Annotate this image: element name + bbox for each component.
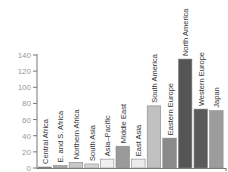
bar-label: Japan [212, 87, 221, 107]
bar-label: East Asia [134, 124, 143, 156]
bar [69, 162, 83, 168]
bar [85, 164, 99, 168]
bar-label: Central Africa [41, 118, 50, 164]
y-tick-label: 20 [22, 148, 31, 157]
bar-label: E. and S. Africa [56, 110, 65, 163]
y-tick-label: 140 [18, 51, 32, 60]
y-tick-label: 120 [18, 67, 32, 76]
bar-label: Middle East [119, 103, 128, 143]
bar [132, 159, 146, 168]
bar-label: Western Europe [197, 52, 206, 106]
y-tick-label: 100 [18, 83, 32, 92]
bar [54, 166, 68, 168]
bar [116, 146, 130, 168]
y-tick-label: 80 [22, 99, 31, 108]
bar-label: Eastern Europe [166, 83, 175, 135]
bar-label: South Asia [88, 124, 97, 161]
y-tick-label: 60 [22, 116, 31, 125]
bar-label: Asia–Pacific [103, 115, 112, 156]
bar [147, 106, 161, 168]
y-tick-label: 40 [22, 132, 31, 141]
bar [163, 138, 177, 168]
bar-chart: 020406080100120140 Central AfricaE. and … [0, 0, 228, 172]
bars [38, 59, 223, 168]
y-tick-label: 0 [27, 164, 32, 172]
bar [38, 167, 52, 168]
bar [194, 109, 208, 168]
bar [178, 59, 192, 168]
bar [100, 159, 114, 168]
bar [210, 111, 224, 168]
bar-label: North America [181, 8, 190, 56]
bar-label: Northern Africa [72, 109, 81, 160]
bar-label: South America [150, 53, 159, 103]
